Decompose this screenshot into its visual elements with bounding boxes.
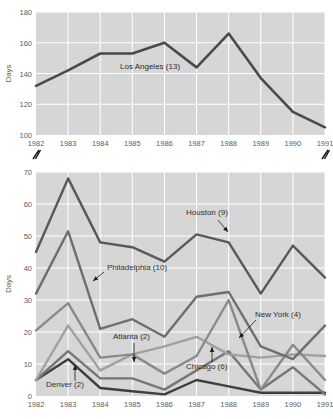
y-tick-label: 40 (24, 264, 32, 273)
y-axis-title: Days (4, 64, 13, 82)
figure-root: 100120140160180Days198219831984198519861… (0, 0, 333, 419)
x-tick-label: 1991 (317, 139, 333, 148)
panel-bottom-panel: 010203040506070Days198219831984198519861… (4, 168, 333, 409)
x-tick-label: 1984 (92, 400, 109, 409)
y-tick-label: 60 (24, 200, 32, 209)
x-tick-label: 1988 (220, 139, 237, 148)
x-tick-label: 1985 (124, 139, 141, 148)
x-tick-label: 1983 (60, 400, 77, 409)
x-tick-label: 1990 (285, 139, 302, 148)
x-tick-label: 1989 (252, 400, 269, 409)
series-annotation-label: Houston (9) (186, 208, 228, 217)
y-tick-label: 180 (19, 8, 32, 17)
x-tick-label: 1982 (28, 400, 45, 409)
x-tick-label: 1990 (285, 400, 302, 409)
axis-break-markers (33, 150, 330, 159)
series-annotation-label: Philadelphia (10) (107, 263, 167, 272)
y-tick-label: 30 (24, 296, 32, 305)
y-tick-label: 10 (24, 360, 32, 369)
series-annotation-label: New York (4) (255, 310, 301, 319)
series-annotation-label: Atlanta (2) (113, 332, 150, 341)
two-panel-line-chart: 100120140160180Days198219831984198519861… (0, 0, 333, 419)
x-tick-label: 1991 (317, 400, 333, 409)
y-tick-label: 70 (24, 168, 32, 177)
y-tick-label: 50 (24, 232, 32, 241)
x-tick-label: 1988 (220, 400, 237, 409)
series-annotation-label: Denver (2) (46, 380, 84, 389)
y-axis-title: Days (4, 275, 13, 293)
x-tick-label: 1987 (188, 139, 205, 148)
panel-top-panel: 100120140160180Days198219831984198519861… (4, 8, 333, 148)
x-tick-label: 1983 (60, 139, 77, 148)
series-annotation-label: Los Angeles (13) (120, 62, 180, 71)
x-tick-label: 1986 (156, 139, 173, 148)
series-annotation-label: Chicago (6) (186, 362, 228, 371)
x-tick-label: 1982 (28, 139, 45, 148)
x-tick-label: 1987 (188, 400, 205, 409)
y-tick-label: 160 (19, 39, 32, 48)
y-tick-label: 120 (19, 100, 32, 109)
x-tick-label: 1986 (156, 400, 173, 409)
x-tick-label: 1984 (92, 139, 109, 148)
x-tick-label: 1985 (124, 400, 141, 409)
y-tick-label: 20 (24, 328, 32, 337)
y-tick-label: 140 (19, 70, 32, 79)
x-tick-label: 1989 (252, 139, 269, 148)
